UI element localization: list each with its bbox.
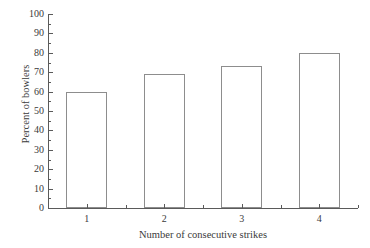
y-axis-tick-label: 30: [22, 145, 44, 155]
bar: [66, 92, 107, 208]
y-axis-tick: [49, 53, 53, 54]
y-axis-tick-label: 70: [22, 67, 44, 77]
x-axis-tick: [319, 204, 320, 208]
y-axis-tick-label: 0: [22, 203, 44, 213]
y-axis-minor-tick: [49, 121, 51, 122]
y-axis-tick: [49, 72, 53, 73]
x-axis-tick-label: 1: [72, 212, 102, 226]
y-axis-tick-label: 40: [22, 125, 44, 135]
bar-chart-figure: Percent of bowlers 010203040506070809010…: [0, 0, 370, 248]
y-axis-tick: [49, 189, 53, 190]
y-axis-tick-label: 60: [22, 87, 44, 97]
x-axis-tick: [242, 204, 243, 208]
x-axis-tick-label: 3: [227, 212, 257, 226]
y-axis-tick-label: 80: [22, 48, 44, 58]
y-axis-minor-tick: [49, 198, 51, 199]
y-axis-tick: [49, 111, 53, 112]
x-axis-tick: [164, 204, 165, 208]
x-axis-title: Number of consecutive strikes: [48, 228, 358, 242]
x-axis-tick-labels: 1234: [48, 212, 358, 226]
y-axis-tick-label: 50: [22, 106, 44, 116]
x-axis-minor-tick: [126, 205, 127, 208]
y-axis-minor-tick: [49, 179, 51, 180]
x-axis-minor-tick: [281, 205, 282, 208]
y-axis-minor-tick: [49, 43, 51, 44]
bar: [299, 53, 340, 208]
x-axis-line: [48, 208, 358, 209]
y-axis-tick: [49, 208, 53, 209]
y-axis-minor-tick: [49, 63, 51, 64]
y-axis-minor-tick: [49, 140, 51, 141]
y-axis-tick: [49, 130, 53, 131]
y-axis-tick: [49, 92, 53, 93]
y-axis-tick-label: 90: [22, 28, 44, 38]
bar: [221, 66, 262, 208]
x-axis-tick-label: 2: [149, 212, 179, 226]
plot-area: [48, 14, 358, 208]
y-axis-tick-label: 100: [22, 9, 44, 19]
y-axis-tick: [49, 33, 53, 34]
y-axis-tick: [49, 14, 53, 15]
y-axis-tick: [49, 169, 53, 170]
y-axis-tick-labels: 0102030405060708090100: [22, 0, 44, 248]
x-axis-tick-label: 4: [304, 212, 334, 226]
y-axis-tick-label: 20: [22, 164, 44, 174]
y-axis-minor-tick: [49, 82, 51, 83]
y-axis-minor-tick: [49, 101, 51, 102]
x-axis-minor-tick: [203, 205, 204, 208]
x-axis-tick: [87, 204, 88, 208]
bar: [144, 74, 185, 208]
y-axis-tick-label: 10: [22, 184, 44, 194]
y-axis-minor-tick: [49, 24, 51, 25]
y-axis-minor-tick: [49, 160, 51, 161]
y-axis-tick: [49, 150, 53, 151]
x-axis-minor-tick: [358, 205, 359, 208]
